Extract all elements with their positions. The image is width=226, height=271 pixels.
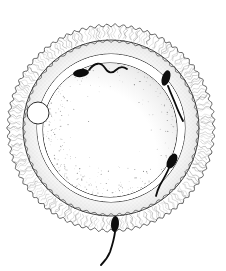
vitellus-group <box>43 63 177 197</box>
polar-body <box>27 102 49 124</box>
ovum-illustration-figure: Human ovum surrounded by spermatozoa <box>0 0 226 271</box>
ovum-diagram-canvas <box>0 0 226 271</box>
vitellus-gradient-shade <box>43 63 177 197</box>
